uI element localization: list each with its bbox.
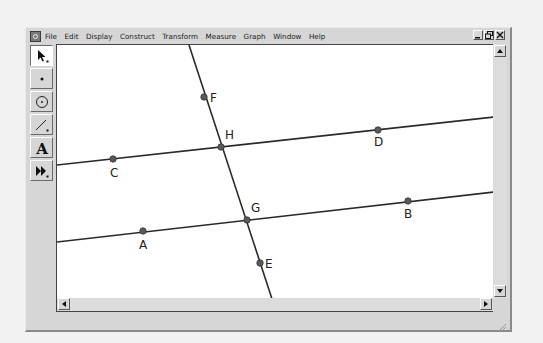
toolbox: A <box>30 45 54 183</box>
point-label[interactable]: F <box>210 91 217 105</box>
menu-help[interactable]: Help <box>309 32 325 41</box>
resize-grip[interactable] <box>497 317 507 327</box>
point-label[interactable]: D <box>374 135 383 149</box>
scroll-right-button[interactable] <box>480 298 492 310</box>
sketch-canvas[interactable]: FHDCGBAE <box>56 44 493 298</box>
arrow-left-icon <box>59 299 69 309</box>
close-button[interactable] <box>495 30 505 40</box>
point-marker[interactable] <box>244 217 250 223</box>
custom-tool[interactable] <box>30 160 53 181</box>
menu-construct[interactable]: Construct <box>120 32 155 41</box>
menu-file[interactable]: File <box>45 32 57 41</box>
point-marker[interactable] <box>140 228 146 234</box>
minimize-icon <box>474 31 482 39</box>
point-icon <box>34 71 50 87</box>
text-icon: A <box>34 140 50 156</box>
menu-transform[interactable]: Transform <box>162 32 198 41</box>
point-label[interactable]: C <box>110 166 118 180</box>
point-b[interactable]: B <box>404 198 412 221</box>
point-label[interactable]: G <box>251 201 260 215</box>
scroll-up-button[interactable] <box>494 45 506 57</box>
menu-graph[interactable]: Graph <box>244 32 266 41</box>
point-tool[interactable] <box>30 68 53 89</box>
line-AB[interactable] <box>57 192 493 242</box>
menu-bar: File Edit Display Construct Transform Me… <box>26 28 511 44</box>
point-marker[interactable] <box>257 260 263 266</box>
compass-tool[interactable] <box>30 91 53 112</box>
close-icon <box>496 31 504 39</box>
point-marker[interactable] <box>110 156 116 162</box>
point-label[interactable]: E <box>265 257 273 271</box>
point-label[interactable]: B <box>404 207 412 221</box>
restore-icon <box>485 31 493 39</box>
arrow-up-icon <box>495 46 505 56</box>
point-d[interactable]: D <box>374 127 383 149</box>
sketchpad-window: File Edit Display Construct Transform Me… <box>25 27 512 332</box>
window-controls <box>473 30 505 40</box>
point-label[interactable]: A <box>139 238 148 252</box>
compass-icon <box>34 94 50 110</box>
minimize-button[interactable] <box>473 30 483 40</box>
arrow-down-icon <box>495 286 505 296</box>
horizontal-scrollbar[interactable] <box>56 298 493 312</box>
arrow-icon <box>34 48 50 64</box>
arrow-tool[interactable] <box>30 45 53 66</box>
straightedge-tool[interactable] <box>30 114 53 135</box>
scroll-left-button[interactable] <box>58 298 70 310</box>
point-f[interactable]: F <box>201 91 217 105</box>
resize-grip-icon <box>497 322 507 332</box>
point-marker[interactable] <box>218 144 224 150</box>
custom-tool-icon <box>34 163 50 179</box>
vertical-scrollbar[interactable] <box>493 44 507 298</box>
app-icon[interactable] <box>30 31 41 42</box>
point-marker[interactable] <box>201 94 207 100</box>
menu-display[interactable]: Display <box>86 32 113 41</box>
restore-button[interactable] <box>484 30 494 40</box>
geometry-drawing[interactable]: FHDCGBAE <box>57 45 493 298</box>
arrow-right-icon <box>481 299 491 309</box>
text-tool[interactable]: A <box>30 137 53 158</box>
straightedge-icon <box>34 117 50 133</box>
point-c[interactable]: C <box>110 156 119 180</box>
line-CD[interactable] <box>57 117 493 165</box>
point-label[interactable]: H <box>225 128 234 142</box>
point-marker[interactable] <box>405 198 411 204</box>
menu-edit[interactable]: Edit <box>65 32 79 41</box>
scroll-down-button[interactable] <box>494 285 506 297</box>
svg-text:A: A <box>35 140 48 156</box>
menu-measure[interactable]: Measure <box>206 32 237 41</box>
menu-window[interactable]: Window <box>273 32 301 41</box>
point-marker[interactable] <box>375 127 381 133</box>
